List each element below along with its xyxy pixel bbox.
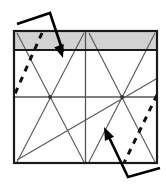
right-crossing-node	[120, 95, 124, 99]
left-crossing-node	[48, 95, 52, 99]
figure-root	[0, 0, 166, 184]
figure-canvas	[0, 0, 166, 184]
figure-background	[0, 0, 166, 184]
